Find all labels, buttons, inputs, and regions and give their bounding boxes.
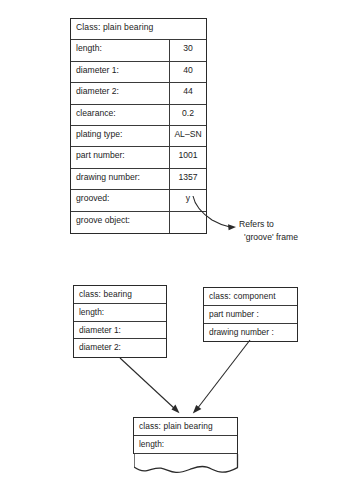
table-row: diameter 2: 44 — [71, 83, 206, 104]
annotation-line-1: Refers to — [239, 218, 298, 231]
slot-label: drawing number: — [71, 169, 169, 189]
slot-label: grooved: — [71, 190, 169, 210]
slot-value: 1357 — [169, 169, 206, 189]
instance-frame-table: Class: plain bearing length: 30 diameter… — [70, 18, 207, 234]
slot-value: 0.2 — [169, 105, 206, 125]
table-row: plating type: AL–SN — [71, 126, 206, 147]
slot-label: length: — [134, 436, 237, 453]
slot-value: 1001 — [169, 147, 206, 167]
inheritance-arrow-bearing — [120, 358, 180, 413]
frame-title-label: Class: plain bearing — [71, 19, 153, 39]
slot-value: y — [169, 190, 206, 210]
table-row: length: 30 — [71, 40, 206, 61]
class-title-label: class: plain bearing — [134, 418, 213, 435]
slot-value: 30 — [169, 40, 206, 60]
annotation-line-2: 'groove' frame — [239, 231, 298, 244]
slot-value: 40 — [169, 62, 206, 82]
slot-label: diameter 1: — [71, 62, 169, 82]
class-box-plain-bearing: class: plain bearing length: — [133, 417, 238, 454]
slot-value — [169, 212, 206, 233]
slot-label: plating type: — [71, 126, 169, 146]
slot-label: length: — [71, 40, 169, 60]
class-box-bearing: class: bearing length: diameter 1: diame… — [73, 285, 167, 358]
torn-edge-decoration — [134, 454, 237, 476]
table-row: length: — [134, 436, 237, 454]
slot-label: diameter 1: — [74, 322, 166, 339]
table-row: drawing number: 1357 — [71, 169, 206, 190]
frame-title-row: class: bearing — [74, 286, 166, 304]
frame-title-row: class: plain bearing — [134, 418, 237, 436]
reference-annotation: Refers to 'groove' frame — [239, 218, 298, 243]
table-row: drawing number : — [204, 324, 297, 342]
table-row: diameter 2: — [74, 339, 166, 357]
table-row: length: — [74, 304, 166, 322]
slot-label: diameter 2: — [74, 339, 166, 357]
class-box-component: class: component part number : drawing n… — [203, 287, 298, 342]
slot-label: clearance: — [71, 105, 169, 125]
class-title-label: class: component — [204, 288, 276, 305]
table-row: groove object: — [71, 212, 206, 233]
inheritance-arrow-component — [193, 340, 250, 414]
slot-value: AL–SN — [169, 126, 206, 146]
table-row: diameter 1: 40 — [71, 62, 206, 83]
slot-label: part number: — [71, 147, 169, 167]
slot-label: part number : — [204, 306, 297, 323]
table-row: grooved: y — [71, 190, 206, 211]
frame-title-row: Class: plain bearing — [71, 19, 206, 40]
slot-value: 44 — [169, 83, 206, 103]
frame-title-row: class: component — [204, 288, 297, 306]
class-title-label: class: bearing — [74, 286, 132, 303]
table-row: diameter 1: — [74, 322, 166, 340]
slot-label: drawing number : — [204, 324, 297, 342]
slot-label: length: — [74, 304, 166, 321]
table-row: part number : — [204, 306, 297, 324]
table-row: clearance: 0.2 — [71, 105, 206, 126]
slot-label: groove object: — [71, 212, 169, 233]
table-row: part number: 1001 — [71, 147, 206, 168]
slot-label: diameter 2: — [71, 83, 169, 103]
